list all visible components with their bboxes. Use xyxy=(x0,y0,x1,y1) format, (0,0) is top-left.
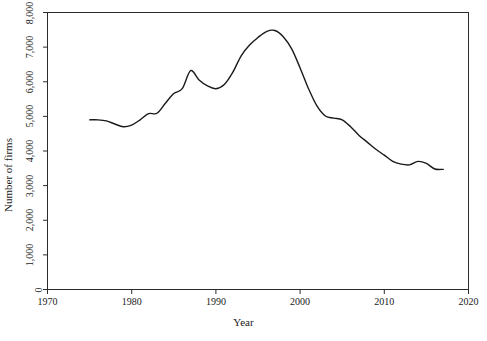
y-tick-label: 6,000 xyxy=(0,75,41,89)
y-tick-label: 1,000 xyxy=(0,248,41,262)
data-series-line xyxy=(90,30,444,169)
x-tick-label: 2020 xyxy=(439,296,487,307)
x-tick-label: 2000 xyxy=(270,296,330,307)
plot-area xyxy=(0,0,487,341)
y-tick-label: 2,000 xyxy=(0,213,41,227)
y-tick-label-text: 7,000 xyxy=(24,36,35,59)
y-tick-label: 8,000 xyxy=(0,6,41,20)
x-tick-label: 1980 xyxy=(102,296,162,307)
y-tick-label-text: 2,000 xyxy=(24,209,35,232)
y-tick-label: 7,000 xyxy=(0,40,41,54)
y-tick-label-text: 3,000 xyxy=(24,174,35,197)
y-tick-label-text: 4,000 xyxy=(24,140,35,163)
y-tick-label: 5,000 xyxy=(0,109,41,123)
x-tick-label: 1990 xyxy=(186,296,246,307)
plot-frame xyxy=(48,13,469,290)
chart-figure: Number of firms Year 01,0002,0003,0004,0… xyxy=(0,0,487,341)
x-tick-label: 1970 xyxy=(18,296,78,307)
y-tick-label: 3,000 xyxy=(0,179,41,193)
y-tick-label-text: 5,000 xyxy=(24,105,35,128)
y-tick-label: 4,000 xyxy=(0,144,41,158)
x-tick-label: 2010 xyxy=(354,296,414,307)
y-tick-label-text: 6,000 xyxy=(24,71,35,94)
y-tick-label-text: 8,000 xyxy=(24,1,35,24)
y-tick-label-text: 0 xyxy=(33,287,44,292)
y-tick-label: 0 xyxy=(0,283,41,297)
y-tick-label-text: 1,000 xyxy=(24,244,35,267)
